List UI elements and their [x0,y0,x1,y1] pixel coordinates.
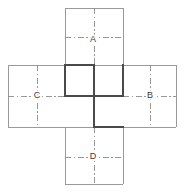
net-diagram-svg: AACCBBDD [0,0,184,192]
label-d: D [90,151,97,161]
cube-net-figure: AACCBBDD [0,0,184,192]
label-c: C [34,90,41,100]
label-b: B [147,90,153,100]
label-a: A [90,34,96,44]
